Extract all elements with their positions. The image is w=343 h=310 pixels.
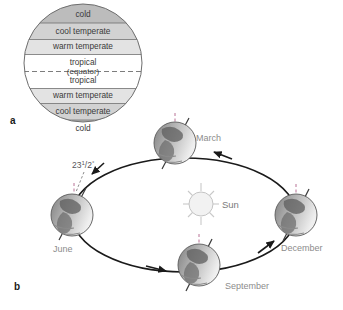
earth-position-june xyxy=(51,183,93,240)
panel-letter-b: b xyxy=(14,281,20,292)
zone-label-cold-north: cold xyxy=(75,9,91,19)
season-label-june: June xyxy=(53,244,73,254)
axial-tilt-value: 23 xyxy=(72,160,82,170)
zone-label-cold-south: cold xyxy=(75,123,91,133)
season-label-december: December xyxy=(281,243,323,253)
sun-disc xyxy=(189,192,213,216)
zone-label-tropical-south: tropical xyxy=(70,75,97,85)
panel-letter-a: a xyxy=(10,115,16,126)
axial-tilt-label: 231/2° xyxy=(72,160,95,170)
zone-label-warm-temperate-north: warm temperate xyxy=(52,41,113,51)
tilt-leader-line xyxy=(76,172,84,192)
earth-position-december xyxy=(275,184,317,241)
orbit-diagram: Sun March June xyxy=(51,113,323,291)
orbit-arrow-to-march xyxy=(214,152,232,159)
zone-label-warm-temperate-south: warm temperate xyxy=(52,90,113,100)
zone-label-cool-temperate-south: cool temperate xyxy=(56,106,111,116)
earth-position-march xyxy=(154,113,196,169)
climate-zone-diagram: cold cool temperate warm temperate tropi… xyxy=(24,4,142,140)
earth-seasons-figure: cold cool temperate warm temperate tropi… xyxy=(0,0,343,310)
sun-icon xyxy=(183,183,219,225)
season-label-march: March xyxy=(196,133,221,143)
earth-position-september xyxy=(178,234,220,291)
season-label-september: September xyxy=(225,281,269,291)
axial-tilt-degree-sign: ° xyxy=(92,160,95,166)
sun-label: Sun xyxy=(222,199,239,210)
zone-label-cool-temperate-north: cool temperate xyxy=(56,26,111,36)
